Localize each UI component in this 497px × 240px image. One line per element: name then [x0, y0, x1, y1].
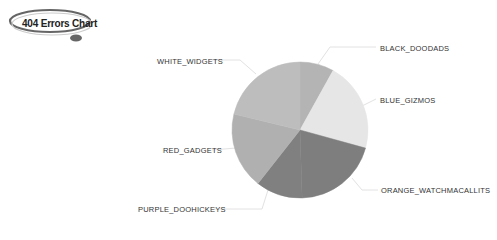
- label-blue-gizmos: BLUE_GIZMOS: [380, 96, 436, 105]
- leader-line: [318, 47, 376, 64]
- label-orange-watchmacallits: ORANGE_WATCHMACALLITS: [381, 186, 490, 195]
- label-white-widgets: WHITE_WIDGETS: [157, 57, 223, 66]
- leader-line: [352, 178, 378, 190]
- label-purple-doohickeys: PURPLE_DOOHICKEYS: [138, 205, 226, 214]
- leader-line: [362, 99, 376, 106]
- label-red-gadgets: RED_GADGETS: [163, 146, 222, 155]
- label-black-doodads: BLACK_DOODADS: [380, 44, 449, 53]
